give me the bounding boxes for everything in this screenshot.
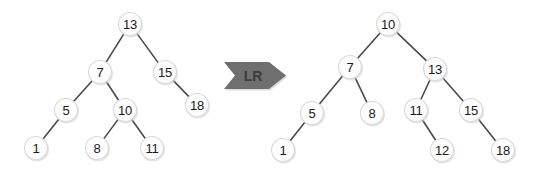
tree-node-7[interactable]: 7 <box>89 61 114 86</box>
tree-edge <box>357 32 380 59</box>
arrow-layer: LR <box>224 62 287 91</box>
tree-edge <box>131 119 145 139</box>
node-value-label: 15 <box>464 103 478 118</box>
tree-node-11[interactable]: 11 <box>405 99 430 124</box>
tree-node-18[interactable]: 18 <box>186 94 211 119</box>
lr-rotation-arrow: LR <box>224 62 287 91</box>
node-value-label: 18 <box>496 143 510 158</box>
tree-node-12[interactable]: 12 <box>431 139 456 164</box>
tree-edge <box>442 77 463 101</box>
tree-node-18[interactable]: 18 <box>492 139 517 164</box>
tree-node-10[interactable]: 10 <box>377 13 402 38</box>
node-value-label: 7 <box>97 65 104 80</box>
node-value-label: 13 <box>428 62 442 77</box>
node-value-label: 12 <box>435 143 449 158</box>
tree-node-1[interactable]: 1 <box>272 139 297 164</box>
tree-edge <box>106 81 119 101</box>
tree-edge <box>422 119 436 141</box>
tree-edge <box>319 75 343 104</box>
tree-edge <box>136 33 158 63</box>
tree-edge <box>478 119 496 142</box>
node-value-label: 8 <box>94 141 101 156</box>
node-value-label: 5 <box>63 103 70 118</box>
node-value-label: 15 <box>158 65 172 80</box>
node-value-label: 7 <box>347 60 354 75</box>
before-tree-nodes: 13715510181811 <box>25 13 211 162</box>
node-value-label: 11 <box>146 141 159 156</box>
after-tree-edges <box>290 32 496 142</box>
node-value-label: 5 <box>309 106 316 121</box>
node-value-label: 11 <box>410 103 423 118</box>
tree-edge <box>355 77 368 103</box>
node-value-label: 10 <box>381 17 395 32</box>
tree-node-5[interactable]: 5 <box>55 99 80 124</box>
tree-node-15[interactable]: 15 <box>460 99 485 124</box>
tree-edge <box>106 33 124 62</box>
tree-node-13[interactable]: 13 <box>119 13 144 38</box>
tree-edge <box>73 80 92 102</box>
tree-node-8[interactable]: 8 <box>361 102 386 127</box>
tree-node-7[interactable]: 7 <box>339 56 364 81</box>
tree-node-15[interactable]: 15 <box>154 61 179 86</box>
node-value-label: 8 <box>369 106 376 121</box>
tree-edge <box>43 119 59 140</box>
arrow-label: LR <box>244 68 263 84</box>
tree-edge <box>104 119 119 139</box>
tree-node-13[interactable]: 13 <box>424 58 449 83</box>
diagram-canvas: 137155101818111071358111511218 LR <box>0 0 542 178</box>
tree-edge <box>173 80 190 97</box>
tree-node-11[interactable]: 11 <box>141 137 166 162</box>
tree-node-5[interactable]: 5 <box>301 102 326 127</box>
node-value-label: 1 <box>33 141 40 156</box>
node-value-label: 13 <box>123 17 137 32</box>
binary-tree-rotation-diagram: 137155101818111071358111511218 LR <box>0 0 542 178</box>
tree-edge <box>396 32 427 62</box>
tree-edge <box>290 122 305 142</box>
node-value-label: 18 <box>190 98 204 113</box>
tree-edge <box>421 79 431 100</box>
node-value-label: 1 <box>280 143 287 158</box>
tree-node-10[interactable]: 10 <box>114 99 139 124</box>
node-value-label: 10 <box>118 103 132 118</box>
after-tree-nodes: 1071358111511218 <box>272 13 517 164</box>
tree-node-1[interactable]: 1 <box>25 137 50 162</box>
tree-node-8[interactable]: 8 <box>86 137 111 162</box>
